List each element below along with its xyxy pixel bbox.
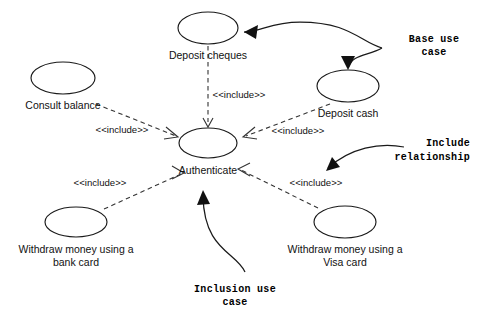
use-case-deposit-cash[interactable]: Deposit cash <box>317 70 379 119</box>
use-case-authenticate[interactable]: Authenticate <box>179 128 238 176</box>
annotation-label-line2: relationship <box>394 152 470 163</box>
use-case-label-line2: Visa card <box>323 256 367 268</box>
use-case-withdraw-bank-card[interactable]: Withdraw money using abank card <box>19 207 134 268</box>
annotation-include-relationship: Includerelationship <box>326 138 470 171</box>
diagram-canvas: <<include>><<include>><<include>><<inclu… <box>0 0 489 321</box>
use-case-ellipse[interactable] <box>45 207 107 237</box>
use-case-layer: Deposit chequesDeposit cashConsult balan… <box>19 12 403 268</box>
use-case-diagram: <<include>><<include>><<include>><<inclu… <box>0 0 489 321</box>
annotation-label-line1: Base use <box>409 34 459 45</box>
use-case-label: Deposit cheques <box>169 49 247 61</box>
use-case-ellipse[interactable] <box>314 206 376 238</box>
include-relationship-consult-balance: <<include>> <box>96 104 178 139</box>
use-case-label-line2: bank card <box>53 256 99 268</box>
use-case-label: Authenticate <box>179 164 238 176</box>
use-case-ellipse[interactable] <box>31 62 95 94</box>
use-case-withdraw-visa-card[interactable]: Withdraw money using aVisa card <box>288 206 403 268</box>
include-stereotype-label: <<include>> <box>213 89 266 100</box>
use-case-label: Withdraw money using a <box>288 243 403 255</box>
annotation-label-line1: Include <box>426 138 470 149</box>
annotation-base-use-case: Base usecase <box>244 22 459 70</box>
include-stereotype-label: <<include>> <box>74 177 127 188</box>
use-case-ellipse[interactable] <box>178 12 238 44</box>
use-case-ellipse[interactable] <box>317 70 379 102</box>
use-case-deposit-cheques[interactable]: Deposit cheques <box>169 12 247 61</box>
include-relationship-withdraw-bank-card: <<include>> <box>74 166 184 209</box>
use-case-label: Deposit cash <box>318 107 379 119</box>
use-case-label: Withdraw money using a <box>19 243 134 255</box>
annotation-label-line2: case <box>222 297 247 308</box>
annotation-arrowhead-icon <box>326 157 340 171</box>
include-stereotype-label: <<include>> <box>290 177 343 188</box>
annotation-arrowhead-icon <box>341 56 355 70</box>
annotation-arrowhead-icon <box>197 190 210 205</box>
annotation-label-line1: Inclusion use <box>194 284 276 295</box>
use-case-label: Consult balance <box>25 99 100 111</box>
include-stereotype-label: <<include>> <box>272 125 325 136</box>
include-arrowhead-icon <box>164 127 178 139</box>
include-arrowhead-icon <box>238 163 250 176</box>
annotation-inclusion-use-case: Inclusion usecase <box>194 190 276 308</box>
use-case-consult-balance[interactable]: Consult balance <box>25 62 100 111</box>
include-stereotype-label: <<include>> <box>96 124 149 135</box>
annotation-label-line2: case <box>421 47 446 58</box>
annotation-arrowhead-icon <box>244 25 258 39</box>
use-case-ellipse[interactable] <box>179 128 237 158</box>
